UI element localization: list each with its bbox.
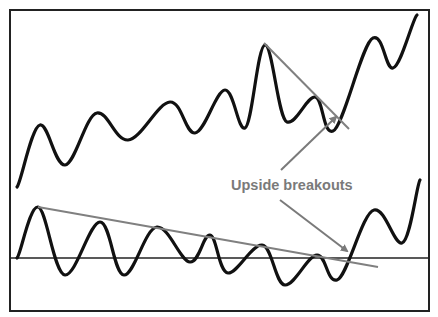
upside-breakouts-label: Upside breakouts	[231, 177, 353, 193]
breakout-diagram: Upside breakouts	[0, 0, 438, 317]
diagram-canvas: Upside breakouts	[0, 0, 438, 317]
oscillator-line	[17, 180, 420, 285]
arrow-to-oscillator-breakout	[280, 200, 347, 251]
arrow-to-price-breakout	[281, 117, 336, 170]
price-line	[17, 15, 417, 187]
